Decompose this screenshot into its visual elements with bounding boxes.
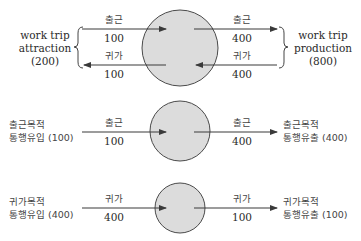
p2-in-label: 출근 — [94, 116, 134, 129]
p2-out-label: 출근 — [222, 116, 262, 129]
p3-in-value: 400 — [94, 211, 134, 224]
out-top-value: 400 — [222, 32, 262, 45]
attraction-line1: work trip — [16, 29, 74, 42]
out-top-label: 출근 — [222, 13, 262, 26]
attraction-line2: attraction — [16, 42, 74, 55]
commute-outflow-label: 출근목적 통행유출 (400) — [283, 118, 348, 144]
right-brace — [279, 27, 288, 68]
return-inflow-label: 귀가목적 통행유입 (400) — [9, 195, 74, 221]
in-top-label: 출근 — [94, 13, 134, 26]
p2-out-value: 400 — [222, 135, 262, 148]
production-line2: production — [290, 42, 356, 55]
out-bottom-label: 귀가 — [222, 49, 262, 62]
zone-circle-1 — [142, 10, 218, 86]
work-trip-production-label: work trip production (800) — [290, 29, 356, 68]
return-outflow-label: 귀가목적 통행유출 (100) — [283, 195, 348, 221]
commute-inflow-line1: 출근목적 — [9, 118, 74, 131]
production-value: (800) — [290, 55, 356, 68]
production-line1: work trip — [290, 29, 356, 42]
p3-in-label: 귀가 — [94, 192, 134, 205]
p2-in-value: 100 — [94, 135, 134, 148]
return-outflow-line1: 귀가목적 — [283, 195, 348, 208]
attraction-value: (200) — [16, 55, 74, 68]
commute-inflow-label: 출근목적 통행유입 (100) — [9, 118, 74, 144]
return-inflow-line2: 통행유입 (400) — [9, 209, 74, 220]
left-brace — [74, 27, 83, 68]
work-trip-attraction-label: work trip attraction (200) — [16, 29, 74, 68]
in-top-value: 100 — [94, 32, 134, 45]
commute-inflow-line2: 통행유입 (100) — [9, 132, 74, 143]
out-bottom-value: 400 — [222, 68, 262, 81]
commute-outflow-line1: 출근목적 — [283, 118, 348, 131]
commute-outflow-line2: 통행유출 (400) — [283, 132, 348, 143]
p3-out-label: 귀가 — [222, 192, 262, 205]
return-outflow-line2: 통행유출 (100) — [283, 209, 348, 220]
p3-out-value: 100 — [222, 211, 262, 224]
in-bottom-value: 100 — [94, 68, 134, 81]
return-inflow-line1: 귀가목적 — [9, 195, 74, 208]
zone-circle-2 — [150, 101, 210, 161]
in-bottom-label: 귀가 — [94, 49, 134, 62]
